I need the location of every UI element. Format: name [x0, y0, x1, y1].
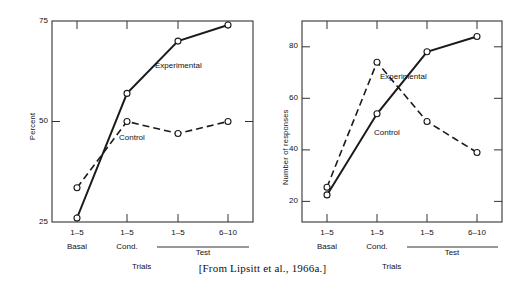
figure-caption: [From Lipsitt et al., 1966a.]: [0, 262, 525, 274]
series-annotation-experimental-right: Experimental: [380, 72, 427, 81]
x-tick-label-left-1: 1–5: [107, 228, 147, 237]
series-annotation-control-right: Control: [374, 128, 400, 137]
series-line-experimental-left: [77, 25, 228, 218]
series-annotation-experimental-left: Experimental: [155, 61, 202, 70]
y-tick-label-left-0: 75: [28, 16, 48, 25]
chart-panel-number-of-responses: Number of responses: [262, 0, 524, 262]
x-tick-label-right-3: 6–10: [457, 228, 497, 237]
x-tick-label-right-1: 1–5: [357, 228, 397, 237]
y-tick-label-right-0: 80: [276, 41, 298, 50]
y-tick-label-left-2: 25: [28, 217, 48, 226]
y-tick-label-right-1: 60: [276, 93, 298, 102]
x-tick-label-left-2: 1–5: [158, 228, 198, 237]
x-group-label-left-cond: Cond.: [107, 242, 147, 251]
x-tick-label-left-3: 6–10: [208, 228, 248, 237]
figure-container: Percent: [0, 0, 525, 287]
x-group-label-right-test: Test: [432, 248, 472, 257]
series-line-experimental-right-path: [327, 37, 477, 195]
x-group-label-right-basal: Basal: [307, 242, 347, 251]
x-group-label-left-test: Test: [183, 248, 223, 257]
x-group-label-left-basal: Basal: [57, 242, 97, 251]
y-tick-label-left-1: 50: [28, 116, 48, 125]
x-group-label-right-cond: Cond.: [357, 242, 397, 251]
series-annotation-control-left: Control: [119, 133, 145, 142]
series-line-control-left: [77, 122, 228, 188]
y-tick-label-right-2: 40: [276, 144, 298, 153]
x-tick-label-right-0: 1–5: [307, 228, 347, 237]
x-tick-label-left-0: 1–5: [57, 228, 97, 237]
x-tick-label-right-2: 1–5: [407, 228, 447, 237]
y-tick-label-right-3: 20: [276, 196, 298, 205]
chart-panel-percent: Percent: [0, 0, 262, 262]
